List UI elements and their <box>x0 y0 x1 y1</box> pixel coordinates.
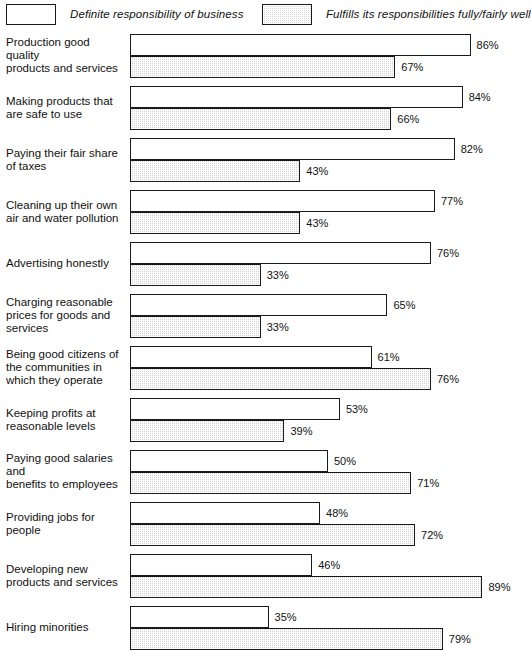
bar-hatched[interactable] <box>130 368 431 390</box>
category-label-line: services <box>6 322 48 334</box>
category-label-line: Making products that <box>6 94 113 106</box>
bar-hatched[interactable] <box>130 628 443 650</box>
bar-hatched[interactable] <box>130 160 300 182</box>
bar-hatched[interactable] <box>130 420 284 442</box>
category-label: Providing jobs for people <box>6 510 126 537</box>
bar-hatched[interactable] <box>130 524 415 546</box>
category-label: Advertising honestly <box>6 257 126 270</box>
hatched-rectangle-icon <box>262 4 312 25</box>
category-label-line: Being good citizens of <box>6 348 119 360</box>
category-label: Cleaning up their ownair and water pollu… <box>6 198 126 225</box>
chart-plot-area: Production good qualityproducts and serv… <box>0 30 514 645</box>
chart-row: Being good citizens ofthe communities in… <box>0 344 514 391</box>
bar-open[interactable] <box>130 450 328 472</box>
category-label-line: benefits to employees <box>6 478 118 490</box>
category-label-line: which they operate <box>6 374 103 386</box>
bar-value-label: 76% <box>437 373 459 385</box>
category-label: Making products thatare safe to use <box>6 94 126 121</box>
chart-row: Keeping profits atreasonable levels53%39… <box>0 396 514 443</box>
bar-open[interactable] <box>130 86 463 108</box>
bar-value-label: 48% <box>326 507 348 519</box>
bar-value-label: 76% <box>437 247 459 259</box>
bar-open[interactable] <box>130 138 455 160</box>
bar-value-label: 53% <box>346 403 368 415</box>
category-label: Paying their fair shareof taxes <box>6 146 126 173</box>
category-label-line: Paying good salaries and <box>6 452 113 477</box>
bar-open[interactable] <box>130 190 435 212</box>
category-label-line: Keeping profits at <box>6 406 96 418</box>
bar-value-label: 67% <box>401 61 423 73</box>
bar-value-label: 46% <box>318 559 340 571</box>
chart-row: Cleaning up their ownair and water pollu… <box>0 188 514 235</box>
chart-row: Paying good salaries andbenefits to empl… <box>0 448 514 495</box>
bar-value-label: 61% <box>378 351 400 363</box>
chart-row: Developing newproducts and services46%89… <box>0 552 514 599</box>
chart-row: Hiring minorities35%79% <box>0 604 514 651</box>
category-label: Production good qualityproducts and serv… <box>6 36 126 76</box>
category-label: Keeping profits atreasonable levels <box>6 406 126 433</box>
bar-value-label: 33% <box>267 269 289 281</box>
category-label-line: the communities in <box>6 361 102 373</box>
category-label: Charging reasonableprices for goods ands… <box>6 296 126 336</box>
legend-entry-1: Definite responsibility of business <box>6 3 244 25</box>
category-label-line: reasonable levels <box>6 420 96 432</box>
bar-value-label: 50% <box>334 455 356 467</box>
bar-value-label: 65% <box>393 299 415 311</box>
bar-open[interactable] <box>130 294 387 316</box>
category-label: Developing newproducts and services <box>6 562 126 589</box>
category-label-line: prices for goods and <box>6 309 110 321</box>
bar-open[interactable] <box>130 34 471 56</box>
category-label-line: Cleaning up their own <box>6 198 117 210</box>
category-label-line: products and services <box>6 576 118 588</box>
bar-open[interactable] <box>130 398 340 420</box>
bar-open[interactable] <box>130 242 431 264</box>
bar-hatched[interactable] <box>130 212 300 234</box>
bar-value-label: 86% <box>477 39 499 51</box>
bar-value-label: 79% <box>449 633 471 645</box>
category-label-line: products and services <box>6 62 118 74</box>
bar-value-label: 82% <box>461 143 483 155</box>
category-label-line: are safe to use <box>6 108 82 120</box>
bar-value-label: 89% <box>488 581 510 593</box>
category-label-line: Advertising honestly <box>6 257 109 269</box>
bar-open[interactable] <box>130 554 312 576</box>
bar-value-label: 39% <box>290 425 312 437</box>
category-label-line: of taxes <box>6 160 46 172</box>
bar-hatched[interactable] <box>130 576 482 598</box>
chart-row: Production good qualityproducts and serv… <box>0 32 514 79</box>
category-label-line: Hiring minorities <box>6 621 88 633</box>
legend-label: Fulfills its responsibilities fully/fair… <box>326 8 531 20</box>
bar-hatched[interactable] <box>130 56 395 78</box>
chart-row: Paying their fair shareof taxes82%43% <box>0 136 514 183</box>
category-label-line: Charging reasonable <box>6 296 113 308</box>
category-label: Hiring minorities <box>6 621 126 634</box>
bar-hatched[interactable] <box>130 316 261 338</box>
open-rectangle-icon <box>6 4 56 25</box>
category-label-line: Providing jobs for people <box>6 510 95 535</box>
bar-value-label: 43% <box>306 217 328 229</box>
bar-value-label: 35% <box>275 611 297 623</box>
category-label-line: Paying their fair share <box>6 146 118 158</box>
legend-entry-2: Fulfills its responsibilities fully/fair… <box>262 3 531 25</box>
bar-value-label: 71% <box>417 477 439 489</box>
bar-hatched[interactable] <box>130 264 261 286</box>
legend-label: Definite responsibility of business <box>70 8 244 20</box>
chart-legend: Definite responsibility of businessFulfi… <box>0 0 514 30</box>
category-label: Being good citizens ofthe communities in… <box>6 348 126 388</box>
category-label-line: Production good quality <box>6 36 90 61</box>
chart-row: Charging reasonableprices for goods ands… <box>0 292 514 339</box>
chart-row: Providing jobs for people48%72% <box>0 500 514 547</box>
bar-hatched[interactable] <box>130 472 411 494</box>
bar-value-label: 43% <box>306 165 328 177</box>
bar-open[interactable] <box>130 346 372 368</box>
bar-value-label: 72% <box>421 529 443 541</box>
bar-hatched[interactable] <box>130 108 391 130</box>
bar-value-label: 77% <box>441 195 463 207</box>
category-label-line: air and water pollution <box>6 212 119 224</box>
bar-value-label: 66% <box>397 113 419 125</box>
chart-row: Making products thatare safe to use84%66… <box>0 84 514 131</box>
bar-open[interactable] <box>130 606 269 628</box>
chart-row: Advertising honestly76%33% <box>0 240 514 287</box>
category-label: Paying good salaries andbenefits to empl… <box>6 452 126 492</box>
bar-open[interactable] <box>130 502 320 524</box>
